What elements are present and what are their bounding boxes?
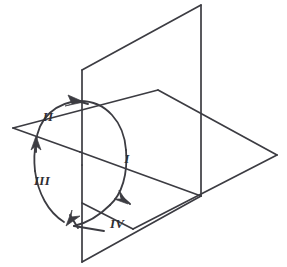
quadrant-label-2: II <box>42 109 54 124</box>
horizontal-plane-edge-back-left <box>13 90 158 128</box>
quadrant-label-4: IV <box>109 216 125 231</box>
vertical-plane <box>82 5 201 262</box>
figure-container: I II III IV <box>0 0 287 267</box>
intersection-line-right <box>80 152 201 196</box>
arrow-head-bottom <box>66 210 80 226</box>
intersection-line-left <box>13 128 80 152</box>
planes-orbit-diagram: I II III IV <box>0 0 287 267</box>
horizontal-plane-edge-front-right <box>133 155 277 229</box>
horizontal-plane-edge-back-right <box>158 90 277 155</box>
quadrant-label-3: III <box>33 173 51 188</box>
vertical-plane-edge-top <box>82 5 201 70</box>
vertical-plane-edge-bottom <box>82 196 201 262</box>
quadrant-label-1: I <box>123 151 130 166</box>
